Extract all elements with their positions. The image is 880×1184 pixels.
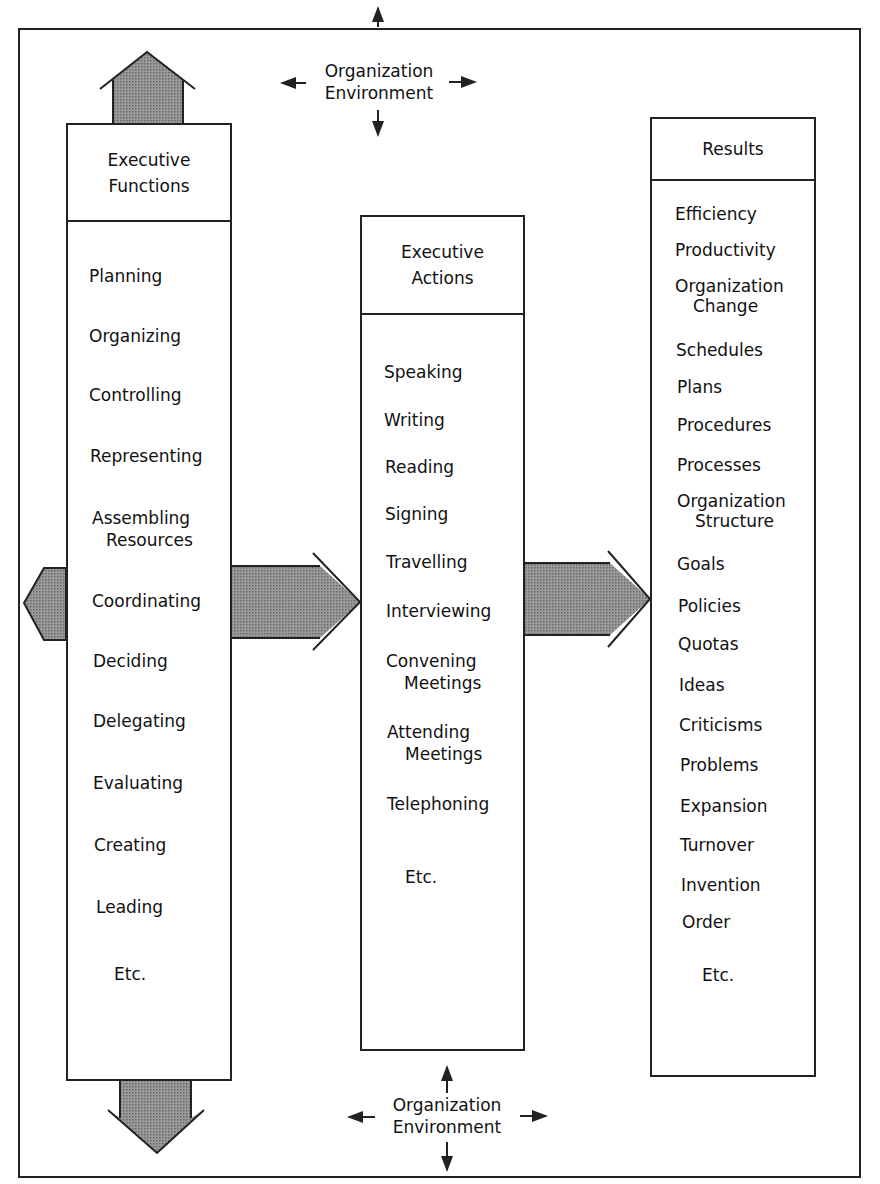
executive-actions-box: Executive Actions	[360, 215, 525, 1051]
up-arrow-icon	[100, 52, 195, 124]
action-item: Reading	[385, 456, 454, 478]
results-title: Results	[702, 136, 763, 162]
function-item: Leading	[96, 896, 163, 918]
environment-line1: Organization	[374, 1094, 520, 1116]
result-item: Turnover	[680, 834, 754, 856]
environment-line2: Environment	[374, 1116, 520, 1138]
function-item: Representing	[90, 445, 202, 467]
result-item: Schedules	[676, 339, 763, 361]
result-item: Problems	[680, 754, 758, 776]
result-item: Efficiency	[675, 203, 757, 225]
function-item: Coordinating	[92, 590, 201, 612]
result-item: OrganizationStructure	[677, 490, 786, 532]
action-item: ConveningMeetings	[386, 650, 481, 694]
function-item: Organizing	[89, 325, 181, 347]
result-item: Order	[682, 911, 730, 933]
action-item: AttendingMeetings	[387, 721, 482, 765]
result-item: Quotas	[678, 633, 739, 655]
action-item: Speaking	[384, 361, 463, 383]
environment-label-bottom: Organization Environment	[374, 1094, 520, 1138]
environment-label-top: Organization Environment	[306, 60, 452, 104]
result-item: Etc.	[702, 964, 734, 986]
function-item: Controlling	[89, 384, 181, 406]
header-line2: Actions	[401, 265, 484, 291]
result-item: Plans	[677, 376, 722, 398]
function-item: Etc.	[114, 963, 146, 985]
action-item: Interviewing	[386, 600, 491, 622]
environment-line1: Organization	[306, 60, 452, 82]
result-item: Goals	[677, 553, 725, 575]
function-item: Deciding	[93, 650, 168, 672]
results-header: Results	[652, 119, 814, 181]
left-arrow-icon	[24, 568, 66, 640]
function-item: Planning	[89, 265, 162, 287]
function-item: Delegating	[93, 710, 186, 732]
result-item: Ideas	[679, 674, 725, 696]
action-item: Etc.	[405, 866, 437, 888]
executive-actions-header: Executive Actions	[362, 217, 523, 315]
function-item: AssemblingResources	[92, 507, 193, 551]
result-item: Expansion	[680, 795, 768, 817]
action-item: Travelling	[386, 551, 468, 573]
executive-functions-header: Executive Functions	[68, 125, 230, 222]
header-line1: Executive	[108, 147, 191, 173]
down-arrow-icon	[108, 1080, 204, 1153]
result-item: Policies	[678, 595, 741, 617]
function-item: Creating	[94, 834, 166, 856]
result-item: Invention	[681, 874, 761, 896]
right-arrow-icon-functions-to-actions	[231, 553, 360, 650]
result-item: Procedures	[677, 414, 771, 436]
result-item: Processes	[677, 454, 761, 476]
header-line1: Executive	[401, 239, 484, 265]
result-item: Criticisms	[679, 714, 762, 736]
result-item: Productivity	[675, 239, 776, 261]
action-item: Writing	[384, 409, 445, 431]
header-line2: Functions	[108, 173, 191, 199]
result-item: OrganizationChange	[675, 275, 784, 317]
right-arrow-icon-actions-to-results	[525, 551, 650, 647]
function-item: Evaluating	[93, 772, 183, 794]
environment-line2: Environment	[306, 82, 452, 104]
action-item: Telephoning	[387, 793, 489, 815]
action-item: Signing	[385, 503, 448, 525]
